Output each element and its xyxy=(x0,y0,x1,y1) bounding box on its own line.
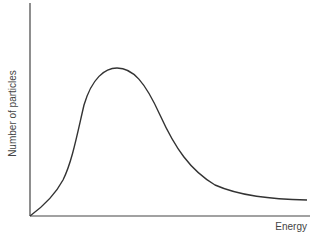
y-axis-label: Number of particles xyxy=(7,64,18,164)
chart: Number of particles Energy xyxy=(0,0,323,238)
distribution-curve xyxy=(30,68,307,216)
x-axis-label: Energy xyxy=(275,221,307,232)
plot-area xyxy=(0,0,323,238)
